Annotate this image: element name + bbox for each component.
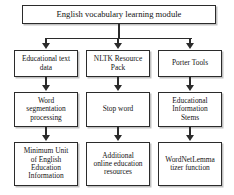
node-wordnetlemmatizer-function[interactable]: WordNetLemma tizer function [158,142,222,186]
node-label: Additional online education resources [89,152,147,177]
arrowhead-col2-row2 [114,43,122,49]
arrowhead-col2-row3 [114,85,122,91]
node-label: Educational text data [17,55,75,72]
arrowhead-col1-row2 [42,43,50,49]
node-label: Educational Information Stems [161,97,219,122]
flowchart-canvas: English vocabulary learning module Educa… [0,0,234,195]
node-label: Word segmentation processing [17,97,75,122]
node-minimum-unit-of-english-education-information[interactable]: Minimum Unit of English Education Inform… [14,142,78,186]
node-label: Stop word [89,105,147,113]
node-porter-tools[interactable]: Porter Tools [158,50,222,77]
node-label: Porter Tools [161,59,219,67]
node-educational-information-stems[interactable]: Educational Information Stems [158,92,222,127]
arrowhead-col3-row2 [186,43,194,49]
node-nltk-resource-pack[interactable]: NLTK Resource Pack [86,50,150,77]
node-label: WordNetLemma tizer function [161,156,219,173]
node-word-segmentation-processing[interactable]: Word segmentation processing [14,92,78,127]
arrowhead-col2-row4 [114,135,122,141]
node-additional-online-education-resources[interactable]: Additional online education resources [86,142,150,186]
node-label: Minimum Unit of English Education Inform… [17,147,75,180]
arrowhead-col1-row3 [42,85,50,91]
node-stop-word[interactable]: Stop word [86,92,150,127]
connector-title-stem [118,24,119,38]
arrowhead-col3-row3 [186,85,194,91]
arrowhead-col3-row4 [186,135,194,141]
node-label: English vocabulary learning module [25,10,213,20]
arrowhead-col1-row4 [42,135,50,141]
connector-distributor-bar [46,38,192,39]
node-english-vocabulary-learning-module[interactable]: English vocabulary learning module [22,5,216,24]
node-educational-text-data[interactable]: Educational text data [14,50,78,77]
node-label: NLTK Resource Pack [89,55,147,72]
